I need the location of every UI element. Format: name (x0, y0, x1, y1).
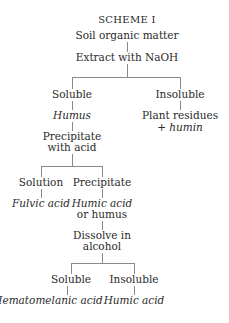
connector-alcohol-branch (102, 253, 103, 263)
branch-line-1 (72, 77, 181, 78)
node-precipitate: Precipitate (73, 177, 132, 188)
node-insoluble-2: Insoluble (109, 274, 158, 285)
node-hematomelanic-acid: Hematomelanic acid (0, 295, 103, 306)
connector-acid-branch (72, 154, 73, 166)
node-insoluble-1: Insoluble (155, 89, 204, 100)
connector-extract-branch (127, 64, 128, 77)
node-soluble-1: Soluble (52, 89, 92, 100)
node-extract-naoh: Extract with NaOH (76, 52, 178, 63)
node-soil-organic-matter: Soil organic matter (75, 30, 178, 41)
node-or-humus: or humus (77, 209, 127, 220)
node-alcohol: alcohol (83, 241, 121, 252)
node-soluble-2: Soluble (51, 274, 91, 285)
branch-line-2 (41, 166, 103, 167)
node-plant-residues: Plant residues (142, 110, 218, 121)
scheme-title: SCHEME I (98, 14, 156, 25)
branch-line-3 (71, 263, 135, 264)
node-fulvic-acid: Fulvic acid (12, 198, 70, 209)
node-with-acid: with acid (48, 142, 97, 153)
node-humic-acid-2: Humic acid (104, 295, 165, 306)
node-solution: Solution (19, 177, 63, 188)
node-humin: + humin (157, 122, 203, 133)
node-humus: Humus (53, 110, 91, 121)
